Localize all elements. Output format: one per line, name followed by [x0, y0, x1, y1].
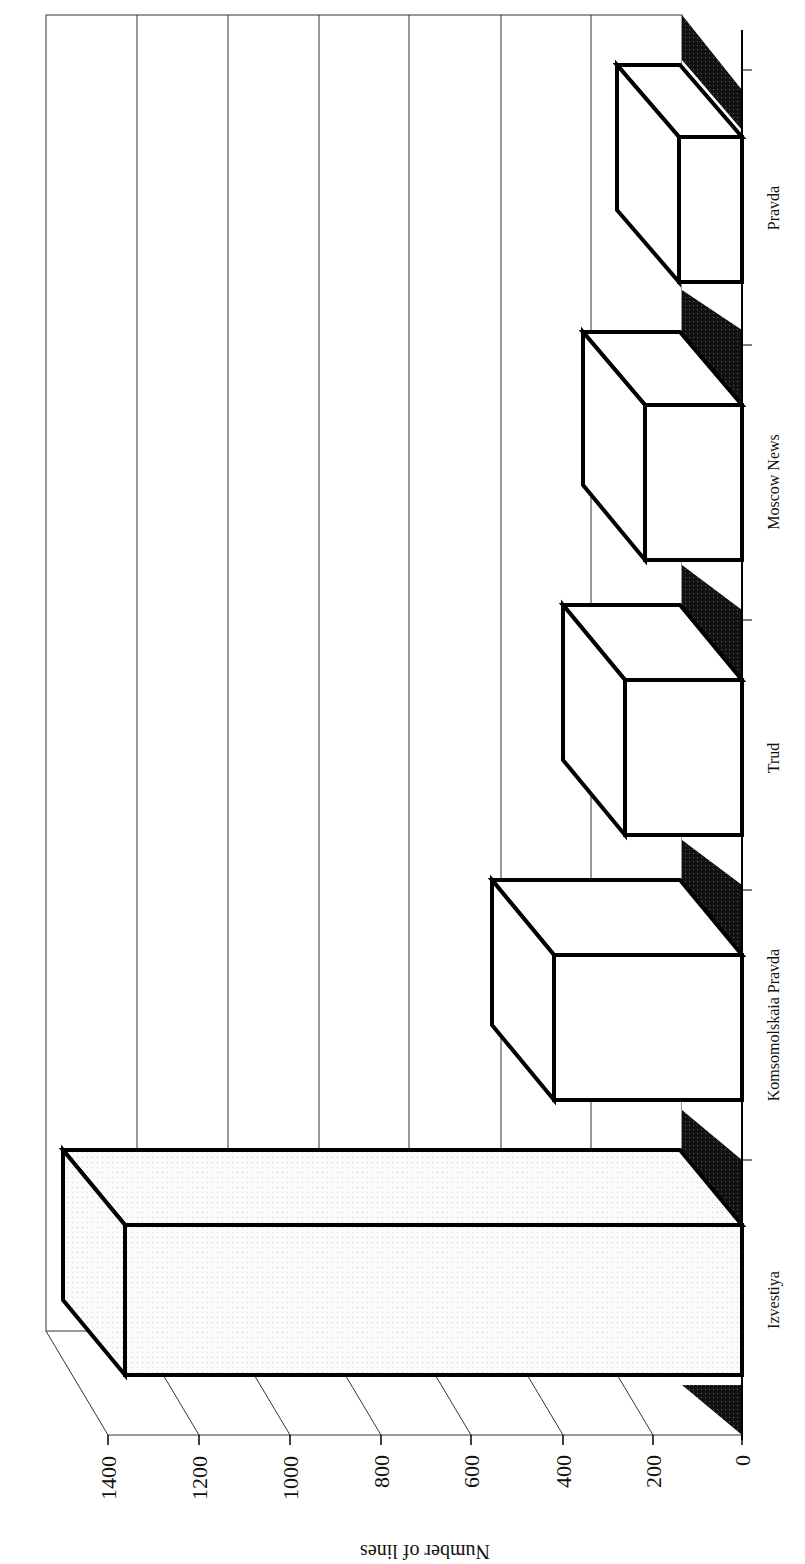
- bar-izvestiya: [63, 1150, 742, 1375]
- tick-800: 800: [369, 1455, 394, 1488]
- category-label-trud: Trud: [765, 743, 782, 774]
- tick-1200: 1200: [187, 1456, 212, 1500]
- category-label-moscow-news: Moscow News: [765, 434, 782, 530]
- tick-1000: 1000: [278, 1456, 303, 1500]
- bar-komsomolskaia-pravda: [492, 880, 742, 1100]
- tick-0: 0: [730, 1455, 755, 1466]
- category-label-izvestiya: Izvestiya: [765, 1271, 783, 1329]
- category-labels: Izvestiya Komsomolskaia Pravda Trud Mosc…: [765, 186, 783, 1329]
- category-label-komsomolskaia-pravda: Komsomolskaia Pravda: [765, 949, 782, 1101]
- tick-400: 400: [551, 1455, 576, 1488]
- bar-chart-3d: 1400 1200 1000 800 600 400 200 0 Number …: [0, 0, 805, 1564]
- tick-1400: 1400: [96, 1456, 121, 1500]
- category-label-pravda: Pravda: [765, 186, 782, 230]
- value-axis-labels: 1400 1200 1000 800 600 400 200 0: [96, 1455, 755, 1500]
- tick-600: 600: [459, 1455, 484, 1488]
- value-axis-title: Number of lines: [360, 1541, 490, 1563]
- tick-200: 200: [641, 1455, 666, 1488]
- value-axis: [108, 1435, 742, 1445]
